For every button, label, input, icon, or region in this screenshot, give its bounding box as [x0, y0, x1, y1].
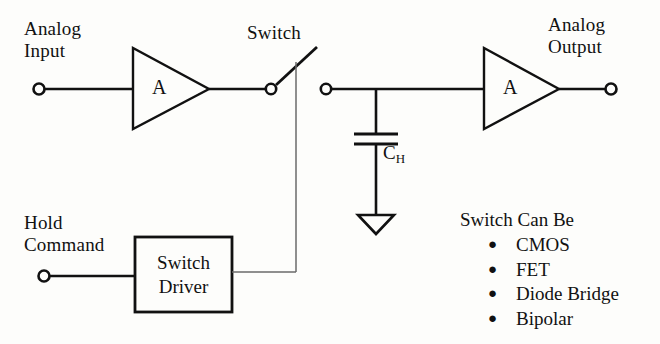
hold-capacitor-subscript: H [396, 151, 405, 166]
switch-options-title: Switch Can Be [460, 209, 619, 231]
hold-capacitor-label: CH [383, 142, 405, 167]
bullet-icon: ● [488, 233, 497, 256]
output-terminal-circle [606, 84, 617, 95]
hold-command-terminal-circle [39, 271, 50, 282]
amplifier-2-label: A [503, 76, 517, 99]
amplifier-1-triangle [133, 48, 209, 129]
ground-symbol [358, 215, 394, 234]
label-hold-command: Hold Command [24, 212, 105, 257]
list-item: ● FET [488, 258, 619, 283]
switch-driver-label-line1: Switch [157, 251, 210, 274]
circuit-diagram-canvas: Analog Input Switch Analog Output Hold C… [0, 0, 660, 344]
list-item: ● Diode Bridge [488, 282, 619, 307]
list-item-label: Diode Bridge [516, 283, 619, 304]
bullet-icon: ● [488, 307, 497, 330]
switch-options-list: ● CMOS ● FET ● Diode Bridge ● Bipolar [460, 233, 619, 331]
switch-driver-label-group: Switch Driver [135, 237, 232, 312]
list-item-label: CMOS [516, 234, 570, 255]
bullet-icon: ● [488, 282, 497, 305]
list-item-label: FET [516, 259, 550, 280]
list-item-label: Bipolar [516, 308, 573, 329]
bullet-icon: ● [488, 258, 497, 281]
list-item: ● CMOS [488, 233, 619, 258]
switch-driver-label-line2: Driver [159, 275, 209, 298]
hold-capacitor-symbol: C [383, 142, 396, 163]
switch-right-terminal-circle [321, 84, 331, 94]
amplifier-1-label: A [152, 76, 166, 99]
input-terminal-circle [34, 84, 45, 95]
switch-options-block: Switch Can Be ● CMOS ● FET ● Diode Bridg… [460, 209, 619, 331]
amplifier-2-triangle [484, 48, 559, 129]
switch-left-terminal-circle[interactable] [266, 84, 276, 94]
label-analog-output: Analog Output [548, 14, 605, 59]
list-item: ● Bipolar [488, 307, 619, 332]
label-analog-input: Analog Input [24, 18, 81, 63]
label-switch: Switch [247, 22, 301, 44]
